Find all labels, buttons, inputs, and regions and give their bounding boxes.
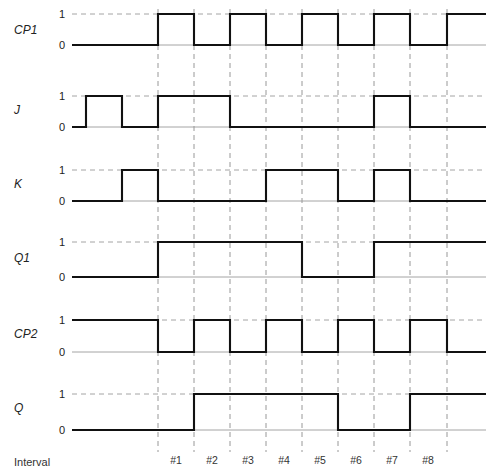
level-high-label: 1 [59, 236, 65, 248]
signal-rows: CP110J10K10Q110CP210Q10 [13, 8, 486, 436]
signal-row-q: Q10 [14, 388, 486, 436]
level-low-label: 0 [59, 121, 65, 133]
interval-label-3: #3 [242, 454, 254, 466]
waveform-q [72, 394, 486, 430]
interval-label-1: #1 [170, 454, 182, 466]
waveform-q1 [72, 242, 486, 277]
signal-row-cp2: CP210 [14, 314, 486, 358]
level-low-label: 0 [59, 39, 65, 51]
level-low-label: 0 [59, 195, 65, 207]
signal-row-k: K10 [14, 164, 486, 207]
level-high-label: 1 [59, 388, 65, 400]
interval-gridlines [158, 9, 447, 452]
level-high-label: 1 [59, 8, 65, 20]
signal-label-k: K [14, 177, 23, 191]
interval-label-2: #2 [206, 454, 218, 466]
waveform-k [72, 170, 486, 201]
signal-label-q1: Q1 [14, 251, 30, 265]
signal-row-j: J10 [13, 90, 486, 133]
interval-label-5: #5 [314, 454, 326, 466]
signal-label-cp2: CP2 [14, 327, 38, 341]
signal-label-cp1: CP1 [14, 23, 37, 37]
level-high-label: 1 [59, 164, 65, 176]
interval-label-4: #4 [278, 454, 290, 466]
interval-label-7: #7 [386, 454, 398, 466]
interval-axis-label: Interval [14, 456, 50, 468]
interval-label-6: #6 [350, 454, 362, 466]
level-low-label: 0 [59, 346, 65, 358]
interval-label-8: #8 [422, 454, 434, 466]
interval-tick-labels: #1#2#3#4#5#6#7#8 [170, 454, 434, 466]
waveform-cp2 [72, 320, 486, 352]
waveform-j [72, 96, 486, 127]
level-low-label: 0 [59, 424, 65, 436]
signal-row-q1: Q110 [14, 236, 486, 283]
level-high-label: 1 [59, 90, 65, 102]
signal-label-q: Q [14, 401, 23, 415]
waveform-cp1 [72, 14, 486, 45]
timing-diagram-canvas: CP110J10K10Q110CP210Q10 #1#2#3#4#5#6#7#8… [0, 0, 491, 476]
level-low-label: 0 [59, 271, 65, 283]
timing-diagram: CP110J10K10Q110CP210Q10 #1#2#3#4#5#6#7#8… [0, 0, 491, 476]
signal-row-cp1: CP110 [14, 8, 486, 51]
level-high-label: 1 [59, 314, 65, 326]
signal-label-j: J [13, 103, 21, 117]
